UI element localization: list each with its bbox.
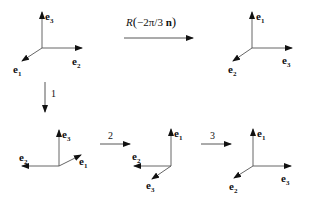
label-e2: e2 [19,151,28,166]
axis-e2-diag [233,48,252,61]
label-e3: e3 [62,128,71,143]
label-e3: e3 [281,172,290,187]
label-e1: e1 [174,127,183,142]
step-label: 2 [108,130,113,141]
label-e3: e3 [146,179,155,194]
frame-step3: e1 e3 e2 [229,127,291,195]
rotation-label: R(−2π/3 n) [125,14,176,29]
main-rotation-arrow: R(−2π/3 n) [124,14,193,38]
label-e2: e2 [228,63,237,78]
frame-step2: e1 e2 e3 [132,127,183,194]
step-label: 1 [51,88,56,99]
label-e3: e3 [45,10,54,25]
frame-step1: e3 e2 e1 [19,128,88,170]
label-e2: e2 [132,150,141,165]
axis-e2-diag [234,166,253,178]
label-e1: e1 [256,10,265,25]
label-e1: e1 [79,155,88,170]
label-e1: e1 [257,127,266,142]
label-e1: e1 [13,63,22,78]
step-2-arrow: 2 [100,130,130,144]
frame-initial: e3 e2 e1 [13,10,82,78]
frame-final: e1 e3 e2 [228,10,292,78]
axis-e1-diag [22,48,42,61]
label-e3: e3 [282,54,291,69]
axis-e3-diag [152,166,171,179]
label-e2: e2 [229,180,238,195]
step-1-arrow: 1 [45,82,56,112]
step-label: 3 [210,130,215,141]
step-3-arrow: 3 [201,130,231,144]
axis-e1-diag [59,155,81,166]
label-e2: e2 [72,55,81,70]
rotation-diagram: e3 e2 e1 R(−2π/3 n) e1 e3 e2 1 e3 e2 e1 … [0,0,309,199]
